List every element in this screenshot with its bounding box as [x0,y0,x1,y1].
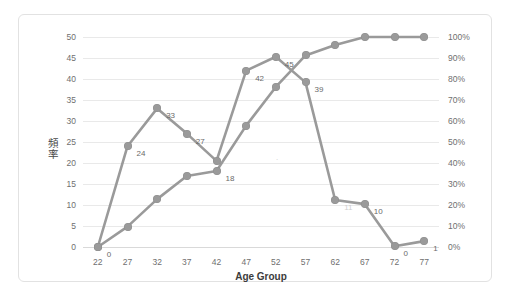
data-point-marker [421,34,428,41]
gridline [83,247,439,248]
data-point-label: 11 [344,202,352,211]
y-axis-right-tick-label: 90% [448,53,465,63]
x-axis-tick-label: 52 [271,257,280,267]
y-axis-right-tick-label: 80% [448,74,465,84]
data-point-label: 18 [226,173,235,182]
y-axis-title: 頻率 [45,138,61,160]
x-axis-tick-label: 47 [241,257,250,267]
data-point-marker [94,244,101,251]
data-point-marker [361,201,368,208]
y-axis-right-tick-label: 20% [448,200,465,210]
plot-area: 05101520253035404550 0%10%20%30%40%50%60… [83,37,439,247]
y-axis-left-tick-label: 35 [67,95,76,105]
y-axis-left-tick-label: 5 [71,221,76,231]
data-point-label: 39 [315,85,324,94]
x-axis-tick-label: 22 [93,257,102,267]
y-axis-left-tick-label: 10 [67,200,76,210]
data-point-marker [391,34,398,41]
chart-container: 頻率 05101520253035404550 0%10%20%30%40%50… [18,14,492,282]
data-point-label: 24 [137,149,146,158]
data-point-marker [272,53,279,60]
y-axis-right-tick-label: 50% [448,137,465,147]
data-point-marker [213,157,220,164]
data-point-marker [213,167,220,174]
data-point-label: 27 [196,136,205,145]
series-line [98,57,424,247]
x-axis-tick-label: 72 [390,257,399,267]
data-point-marker [302,79,309,86]
data-point-marker [154,196,161,203]
y-axis-right-tick-label: 60% [448,116,465,126]
y-axis-left-tick-label: 45 [67,53,76,63]
x-axis-tick-label: 42 [212,257,221,267]
data-point-label: 0 [107,250,111,259]
data-point-label: 33 [166,111,175,120]
data-point-marker [421,238,428,245]
data-point-marker [272,83,279,90]
y-axis-left-tick-label: 50 [67,32,76,42]
x-axis-tick-label: 32 [152,257,161,267]
y-axis-left-tick-label: 30 [67,116,76,126]
stray-mark: · [276,154,279,163]
y-axis-right-tick-label: 10% [448,221,465,231]
x-axis-tick-label: 77 [419,257,428,267]
y-axis-left-tick-label: 25 [67,137,76,147]
data-point-marker [361,34,368,41]
data-point-marker [154,105,161,112]
data-point-marker [391,243,398,250]
data-point-marker [243,67,250,74]
x-axis-tick-label: 67 [360,257,369,267]
data-point-label: 1 [433,244,437,253]
x-axis-tick-label: 62 [330,257,339,267]
y-axis-left-tick-label: 15 [67,179,76,189]
y-axis-left-tick-label: 40 [67,74,76,84]
y-axis-right-tick-label: 30% [448,179,465,189]
data-point-marker [183,130,190,137]
data-point-marker [243,122,250,129]
data-point-marker [124,143,131,150]
y-axis-left-tick-label: 20 [67,158,76,168]
data-point-marker [124,223,131,230]
data-point-marker [332,41,339,48]
x-axis-tick-label: 57 [301,257,310,267]
data-point-marker [302,52,309,59]
y-axis-right-tick-label: 100% [448,32,470,42]
data-point-label: 45 [285,59,294,68]
data-point-label: 0 [404,249,408,258]
series-lines [83,37,439,247]
data-point-marker [332,196,339,203]
data-point-label: 10 [374,207,383,216]
data-point-label: 42 [255,73,264,82]
data-point-marker [183,173,190,180]
y-axis-left-tick-label: 0 [71,242,76,252]
y-axis-right-tick-label: 40% [448,158,465,168]
y-axis-right-tick-label: 70% [448,95,465,105]
x-axis-title: Age Group [83,271,439,282]
y-axis-right-tick-label: 0% [448,242,460,252]
x-axis-tick-label: 27 [123,257,132,267]
x-axis-tick-label: 37 [182,257,191,267]
